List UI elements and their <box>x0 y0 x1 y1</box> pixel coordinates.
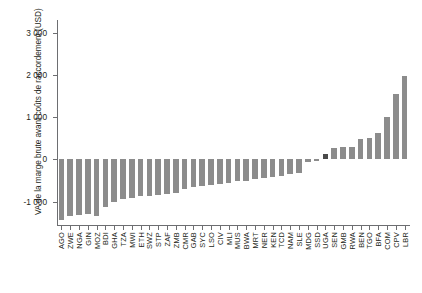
x-tick-mark <box>299 226 300 230</box>
x-tick-mark <box>193 226 194 230</box>
bar <box>217 159 222 184</box>
x-tick-mark <box>79 226 80 230</box>
bar <box>76 159 81 215</box>
plot-area: -1 00001 0002 0003 000 <box>57 20 409 225</box>
x-tick-mark <box>237 226 238 230</box>
x-tick-mark <box>255 226 256 230</box>
x-tick-label: ZWE <box>66 232 75 249</box>
x-tick-mark <box>97 226 98 230</box>
x-tick-label: ZAF <box>163 232 172 247</box>
y-tick-label: 2 000 <box>26 70 47 80</box>
bar <box>261 159 266 178</box>
bar <box>235 159 240 181</box>
bar <box>384 117 389 159</box>
x-tick-mark <box>387 226 388 230</box>
x-tick-mark <box>317 226 318 230</box>
x-tick-label: MDG <box>304 232 313 250</box>
x-tick-label: GIN <box>84 232 93 246</box>
bar <box>226 159 231 183</box>
bar <box>340 147 345 159</box>
x-tick-mark <box>396 226 397 230</box>
bar <box>393 94 398 160</box>
bar <box>94 159 99 215</box>
x-tick-mark <box>281 226 282 230</box>
bar <box>252 159 257 179</box>
x-tick-mark <box>61 226 62 230</box>
bar <box>208 159 213 184</box>
x-axis-labels: AGOZWENGAGINMOZBDIGHATZAMWIETHSWZSTPZAFZ… <box>57 232 410 290</box>
bar <box>349 147 354 160</box>
x-tick-label: NGA <box>75 232 84 249</box>
y-tick-label: 0 <box>42 154 47 164</box>
x-tick-label: MRT <box>251 232 260 248</box>
bar <box>287 159 292 174</box>
x-tick-mark <box>149 226 150 230</box>
x-tick-mark <box>88 226 89 230</box>
bar <box>331 148 336 159</box>
x-tick-mark <box>325 226 326 230</box>
bar <box>199 159 204 185</box>
x-tick-mark <box>176 226 177 230</box>
x-tick-label: ZMB <box>172 232 181 248</box>
x-tick-label: MWI <box>128 232 137 248</box>
x-tick-mark <box>334 226 335 230</box>
bar <box>191 159 196 187</box>
x-tick-mark <box>202 226 203 230</box>
bar <box>243 159 248 180</box>
x-tick-label: BFA <box>374 232 383 247</box>
bar <box>67 159 72 215</box>
bar <box>279 159 284 175</box>
x-tick-label: CPV <box>392 232 401 248</box>
chart-figure: VA de la marge brute avant coûts de racc… <box>0 0 422 293</box>
x-tick-mark <box>211 226 212 230</box>
x-tick-mark <box>361 226 362 230</box>
bar <box>155 159 160 195</box>
bar <box>270 159 275 177</box>
bar-series <box>57 20 409 225</box>
bar <box>375 133 380 159</box>
bar <box>173 159 178 192</box>
y-tick-label: 3 000 <box>26 28 47 38</box>
x-tick-mark <box>70 226 71 230</box>
x-tick-label: SYC <box>198 232 207 248</box>
bar <box>358 139 363 159</box>
bar <box>164 159 169 194</box>
bar <box>147 159 152 195</box>
bar <box>59 159 64 220</box>
bar <box>314 159 319 161</box>
x-tick-label: CIV <box>216 232 225 245</box>
bar <box>402 76 407 160</box>
x-tick-mark <box>273 226 274 230</box>
bar <box>305 159 310 162</box>
x-tick-mark <box>220 226 221 230</box>
x-tick-mark <box>290 226 291 230</box>
bar <box>182 159 187 189</box>
x-tick-mark <box>167 226 168 230</box>
x-tick-mark <box>308 226 309 230</box>
x-tick-label: GHA <box>110 232 119 249</box>
x-tick-mark <box>105 226 106 230</box>
y-tick-label: -1 000 <box>23 197 47 207</box>
x-tick-label: LSO <box>207 232 216 247</box>
x-tick-label: RWA <box>348 232 357 249</box>
x-tick-mark <box>246 226 247 230</box>
x-tick-mark <box>185 226 186 230</box>
bar <box>367 138 372 159</box>
x-tick-mark <box>369 226 370 230</box>
x-tick-label: TZA <box>119 232 128 247</box>
bar <box>296 159 301 172</box>
x-tick-label: SEN <box>330 232 339 248</box>
x-tick-label: GMB <box>339 232 348 249</box>
bar <box>138 159 143 196</box>
x-tick-label: STP <box>154 232 163 247</box>
x-tick-mark <box>229 226 230 230</box>
bar <box>129 159 134 197</box>
x-tick-label: BWA <box>242 232 251 249</box>
x-tick-mark <box>158 226 159 230</box>
x-tick-mark <box>378 226 379 230</box>
x-tick-label: NER <box>260 232 269 248</box>
y-tick-label: 1 000 <box>26 112 47 122</box>
bar <box>85 159 90 214</box>
bar <box>323 154 328 159</box>
x-tick-label: NAM <box>286 232 295 249</box>
